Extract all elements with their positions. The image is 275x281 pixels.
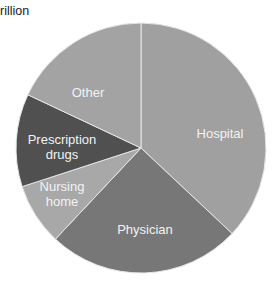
slice-label-hospital: Hospital bbox=[197, 126, 244, 141]
slice-label-physician: Physician bbox=[117, 222, 173, 237]
slice-label-nursing-home: Nursinghome bbox=[40, 179, 85, 209]
pie-chart: HospitalPhysicianNursinghomePrescription… bbox=[0, 0, 275, 281]
slice-label-other: Other bbox=[72, 85, 105, 100]
